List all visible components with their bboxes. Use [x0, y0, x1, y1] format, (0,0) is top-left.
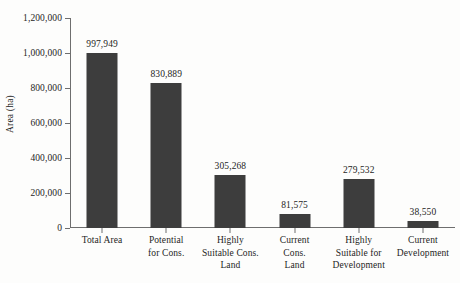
- x-axis-labels: Total AreaPotentialfor Cons.HighlySuitab…: [70, 234, 455, 282]
- bar-slot: 830,889: [134, 18, 198, 228]
- x-category-label: CurrentCons.Land: [263, 234, 327, 272]
- x-category-label: CurrentDevelopment: [391, 234, 455, 259]
- x-tick-mark: [166, 228, 167, 233]
- bar-slot: 81,575: [263, 18, 327, 228]
- y-tick-label: 200,000: [30, 188, 62, 198]
- bar-slot: 38,550: [391, 18, 455, 228]
- x-category-label-line: Land: [198, 259, 262, 272]
- y-tick-label: 0: [57, 223, 62, 233]
- y-tick-mark: [65, 228, 70, 229]
- bar-value-label: 997,949: [86, 39, 118, 49]
- x-category-label-line: Total Area: [70, 234, 134, 247]
- x-tick-mark: [294, 228, 295, 233]
- bar-slot: 997,949: [70, 18, 134, 228]
- bar-slot: 305,268: [198, 18, 262, 228]
- bar-series: 997,949830,889305,26881,575279,53238,550: [70, 18, 455, 228]
- y-tick-label: 800,000: [30, 83, 62, 93]
- x-tick-mark: [358, 228, 359, 233]
- plot-area: 0200,000400,000600,000800,0001,000,0001,…: [70, 18, 455, 228]
- x-category-label-line: Development: [327, 259, 391, 272]
- bar-value-label: 38,550: [410, 207, 437, 217]
- x-category-label-line: for Cons.: [134, 247, 198, 260]
- bar-chart: Area (ha) 0200,000400,000600,000800,0001…: [0, 0, 460, 283]
- y-axis-title-text: Area (ha): [5, 95, 15, 133]
- x-category-label-line: Development: [391, 247, 455, 260]
- x-category-label-line: Land: [263, 259, 327, 272]
- x-category-label: HighlySuitable Cons.Land: [198, 234, 262, 272]
- x-category-label: Potentialfor Cons.: [134, 234, 198, 259]
- x-tick-mark: [422, 228, 423, 233]
- bar-value-label: 305,268: [215, 161, 247, 171]
- x-category-label-line: Suitable for: [327, 247, 391, 260]
- bar-value-label: 279,532: [343, 165, 375, 175]
- y-axis-title: Area (ha): [2, 0, 18, 228]
- x-tick-mark: [102, 228, 103, 233]
- y-tick-label: 400,000: [30, 153, 62, 163]
- bar[interactable]: [343, 179, 374, 228]
- x-tick-mark: [230, 228, 231, 233]
- bar[interactable]: [407, 221, 438, 228]
- x-category-label-line: Cons.: [263, 247, 327, 260]
- bar[interactable]: [279, 214, 310, 228]
- x-category-label: Total Area: [70, 234, 134, 247]
- y-tick-label: 600,000: [30, 118, 62, 128]
- y-tick-label: 1,000,000: [23, 48, 62, 58]
- y-tick-label: 1,200,000: [23, 13, 62, 23]
- x-category-label-line: Current: [391, 234, 455, 247]
- x-category-label: HighlySuitable forDevelopment: [327, 234, 391, 272]
- bar[interactable]: [215, 175, 246, 228]
- bar-slot: 279,532: [327, 18, 391, 228]
- bar-value-label: 81,575: [281, 200, 308, 210]
- x-category-label-line: Potential: [134, 234, 198, 247]
- x-category-label-line: Highly: [327, 234, 391, 247]
- x-category-label-line: Current: [263, 234, 327, 247]
- bar[interactable]: [151, 83, 182, 228]
- bar-value-label: 830,889: [150, 69, 182, 79]
- x-category-label-line: Suitable Cons.: [198, 247, 262, 260]
- x-category-label-line: Highly: [198, 234, 262, 247]
- bar[interactable]: [87, 53, 118, 228]
